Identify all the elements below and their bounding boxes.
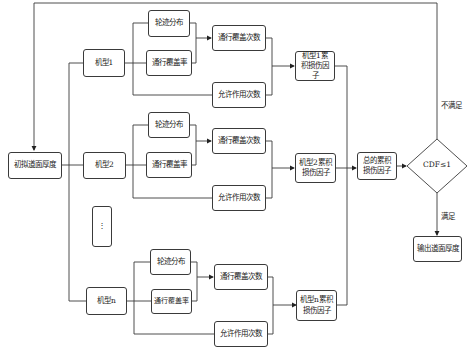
coverage-rate-1-box: 通行覆盖率 <box>146 50 192 76</box>
wheel-distribution-2-box: 轮迹分布 <box>148 112 190 138</box>
aircraft-2-box: 机型2 <box>83 152 126 179</box>
connector-lines <box>0 0 470 352</box>
not-satisfied-label: 不满足 <box>441 99 462 110</box>
damage-factor-1-box: 机型1累积损伤因子 <box>295 51 335 81</box>
allowed-repetitions-n-box: 允许作用次数 <box>214 321 268 347</box>
wheel-distribution-n-box: 轮迹分布 <box>150 249 191 275</box>
damage-factor-2-box: 机型2累积损伤因子 <box>295 153 336 183</box>
aircraft-n-box: 机型n <box>86 287 127 315</box>
wheel-distribution-1-box: 轮迹分布 <box>148 10 190 37</box>
allowed-repetitions-2-box: 允许作用次数 <box>212 185 266 211</box>
coverage-rate-n-box: 通行覆盖率 <box>151 289 192 314</box>
output-thickness-box: 输出道面厚度 <box>413 236 462 262</box>
ellipsis-box: ⋮ <box>92 206 112 247</box>
total-damage-factor-box: 总的累积损伤因子 <box>357 152 397 180</box>
aircraft-1-box: 机型1 <box>83 49 125 77</box>
coverage-count-n-box: 通行覆盖次数 <box>214 264 268 290</box>
damage-factor-n-box: 机型n累积损伤因子 <box>296 290 337 321</box>
coverage-count-1-box: 通行覆盖次数 <box>212 25 266 51</box>
coverage-rate-2-box: 通行覆盖率 <box>146 152 192 178</box>
satisfied-label: 满足 <box>441 210 455 221</box>
start-thickness-box: 初拟道面厚度 <box>8 152 62 179</box>
cdf-condition-label: CDF≤1 <box>412 160 462 169</box>
allowed-repetitions-1-box: 允许作用次数 <box>212 82 266 108</box>
coverage-count-2-box: 通行覆盖次数 <box>212 128 266 154</box>
